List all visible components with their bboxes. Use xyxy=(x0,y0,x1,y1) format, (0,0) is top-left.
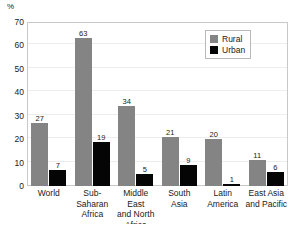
legend-item-urban: Urban xyxy=(210,44,245,55)
y-axis-tick-60: 60 xyxy=(2,41,24,49)
bar-chart: % 010203040506070 2776319345219201116 Ru… xyxy=(0,0,295,224)
x-axis-tick-labels: WorldSub-SaharanAfricaMiddle Eastand Nor… xyxy=(27,188,288,224)
bar-value-label: 20 xyxy=(210,130,218,139)
bar-rural: 20 xyxy=(205,139,222,186)
y-axis-tick-labels: 010203040506070 xyxy=(0,22,24,186)
legend-label-rural: Rural xyxy=(222,34,242,44)
bar-group: 345 xyxy=(114,22,158,186)
legend-swatch-urban-icon xyxy=(210,46,218,54)
bar-urban: 9 xyxy=(180,165,197,186)
bar-urban: 1 xyxy=(223,184,240,186)
bar-rural: 34 xyxy=(118,106,135,186)
y-axis-tick-70: 70 xyxy=(2,18,24,26)
bar-urban: 5 xyxy=(136,174,153,186)
x-axis-label: LatinAmerica xyxy=(201,188,245,209)
x-axis-label-line: South xyxy=(158,188,202,199)
legend-label-urban: Urban xyxy=(222,45,245,55)
bar-value-label: 21 xyxy=(166,128,174,137)
y-axis-tick-40: 40 xyxy=(2,88,24,96)
x-axis-label-line: Asia xyxy=(158,199,202,210)
bar-rural: 21 xyxy=(162,137,179,186)
bar-value-label: 7 xyxy=(56,161,60,170)
legend: Rural Urban xyxy=(205,30,251,59)
bar-value-label: 1 xyxy=(230,175,234,184)
bar-urban: 6 xyxy=(267,172,284,186)
x-axis-label: East Asiaand Pacific xyxy=(245,188,289,209)
x-axis-label-line: Middle East xyxy=(114,188,158,209)
bar-value-label: 63 xyxy=(79,29,87,38)
y-axis-tick-50: 50 xyxy=(2,65,24,73)
bar-group: 6319 xyxy=(71,22,115,186)
x-axis-label-line: Africa xyxy=(71,209,115,220)
x-axis-label-line: and North xyxy=(114,209,158,220)
bar-value-label: 19 xyxy=(97,133,105,142)
bar-value-label: 27 xyxy=(36,114,44,123)
y-axis-tick-20: 20 xyxy=(2,135,24,143)
bar-rural: 63 xyxy=(75,38,92,186)
bar-value-label: 34 xyxy=(123,97,131,106)
bar-value-label: 11 xyxy=(253,151,261,160)
x-axis-label: World xyxy=(27,188,71,199)
bar-urban: 19 xyxy=(93,142,110,187)
x-axis-label-line: and Pacific xyxy=(245,199,289,210)
x-axis-label-line: Saharan xyxy=(71,199,115,210)
x-axis-label-line: America xyxy=(201,199,245,210)
y-axis-tick-30: 30 xyxy=(2,112,24,120)
legend-swatch-rural-icon xyxy=(210,35,218,43)
x-axis-label-line: Latin xyxy=(201,188,245,199)
y-axis-tick-0: 0 xyxy=(2,182,24,190)
x-axis-label-line: Africa xyxy=(114,220,158,225)
x-axis-label: SouthAsia xyxy=(158,188,202,209)
y-axis-tick-10: 10 xyxy=(2,159,24,167)
x-axis-label-line: Sub- xyxy=(71,188,115,199)
y-axis-unit-label: % xyxy=(7,2,14,12)
bar-urban: 7 xyxy=(49,170,66,186)
legend-item-rural: Rural xyxy=(210,33,245,44)
bar-value-label: 6 xyxy=(273,163,277,172)
bar-rural: 27 xyxy=(31,123,48,186)
bar-rural: 11 xyxy=(249,160,266,186)
bar-group: 277 xyxy=(27,22,71,186)
x-axis-label: Middle Eastand NorthAfrica xyxy=(114,188,158,224)
x-axis-label: Sub-SaharanAfrica xyxy=(71,188,115,220)
x-axis-label-line: East Asia xyxy=(245,188,289,199)
x-axis-label-line: World xyxy=(27,188,71,199)
bar-value-label: 5 xyxy=(143,165,147,174)
bar-value-label: 9 xyxy=(186,156,190,165)
bar-group: 219 xyxy=(158,22,202,186)
